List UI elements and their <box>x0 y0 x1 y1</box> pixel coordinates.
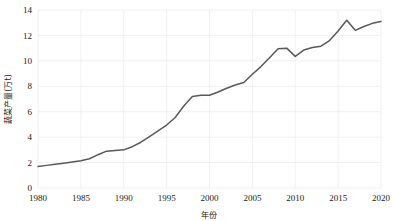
y-axis-tick-group: 02468101214 <box>23 5 33 193</box>
y-axis-tick-label: 8 <box>28 81 33 91</box>
x-axis-tick-label: 2010 <box>286 193 305 203</box>
x-axis-tick-group: 198019851990199520002005201020152020 <box>29 193 391 203</box>
x-axis-tick-label: 1980 <box>29 193 48 203</box>
y-axis-tick-label: 0 <box>28 183 33 193</box>
x-axis-tick-label: 2005 <box>243 193 262 203</box>
y-axis-tick-label: 2 <box>28 158 33 168</box>
y-axis-title: 蔬菜产量(万t) <box>3 74 13 123</box>
x-axis-tick-label: 2000 <box>201 193 220 203</box>
y-axis-tick-label: 14 <box>23 5 33 15</box>
x-axis-title: 年份 <box>201 210 217 220</box>
y-axis-tick-label: 10 <box>23 56 33 66</box>
x-axis-tick-label: 2020 <box>372 193 391 203</box>
y-axis-tick-label: 4 <box>28 132 33 142</box>
x-axis-tick-label: 1985 <box>72 193 91 203</box>
x-axis-tick-label: 1990 <box>115 193 134 203</box>
chart-svg: 02468101214 1980198519901995200020052010… <box>0 0 393 221</box>
chart-gridlines <box>38 10 381 188</box>
x-axis-tick-label: 2015 <box>329 193 348 203</box>
x-axis-tick-label: 1995 <box>158 193 177 203</box>
y-axis-tick-label: 12 <box>23 31 32 41</box>
vegetable-production-line-chart: 02468101214 1980198519901995200020052010… <box>0 0 393 221</box>
y-axis-tick-label: 6 <box>28 107 33 117</box>
